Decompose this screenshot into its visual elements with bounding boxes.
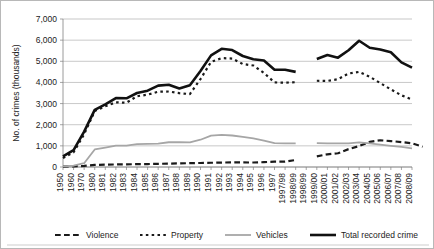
legend: ViolencePropertyVehiclesTotal recorded c… (7, 230, 429, 245)
x-tick-label: 1987 (161, 173, 171, 192)
x-tick-label: 1981 (97, 173, 107, 192)
x-tick-label: 1998/99 (298, 173, 308, 204)
x-tick-label: 1950 (55, 173, 65, 192)
x-tick-label: 1999/00 (309, 173, 319, 204)
x-tick-label: 1984 (129, 173, 139, 192)
series-line-segment (317, 72, 412, 100)
x-tick-label: 2006/07 (383, 173, 393, 204)
x-tick-label: 2008/09 (404, 173, 414, 204)
x-tick-label: 1970 (76, 173, 86, 192)
legend-label-property: Property (171, 230, 204, 240)
legend-label-vehicles: Vehicles (256, 230, 288, 240)
y-tick-label: 6,000 (36, 35, 58, 45)
xtick-label-layer: 1950196019701980198119821983198419851986… (55, 173, 414, 204)
x-tick-label: 1997 (267, 173, 277, 192)
x-tick-label: 1986 (150, 173, 160, 192)
legend-label-total-recorded-crime: Total recorded crime (341, 230, 418, 240)
series-total-recorded-crime (63, 41, 412, 157)
x-tick-label: 1980 (87, 173, 97, 192)
series-line-segment (317, 142, 412, 148)
chart-figure: 01,0002,0003,0004,0005,0006,0007,000 195… (0, 0, 434, 249)
x-tick-label: 2007/08 (393, 173, 403, 204)
legend-label-violence: Violence (86, 230, 119, 240)
x-tick-label: 1960 (66, 173, 76, 192)
x-tick-label: 2004/05 (362, 173, 372, 204)
x-tick-label: 1998/99 (288, 173, 298, 204)
x-tick-label: 1982 (108, 173, 118, 192)
x-tick-label: 1994 (235, 173, 245, 192)
x-tick-label: 1989 (182, 173, 192, 192)
x-tick-label: 1995 (245, 173, 255, 192)
series-line-segment (317, 41, 412, 68)
y-tick-label: 2,000 (36, 120, 58, 130)
x-tick-label: 1991 (203, 173, 213, 192)
y-tick-label: 4,000 (36, 77, 58, 87)
y-tick-label: 5,000 (36, 56, 58, 66)
x-tick-label: 1997/98 (277, 173, 287, 204)
x-tick-label: 1983 (118, 173, 128, 192)
x-tick-label: 1996 (256, 173, 266, 192)
y-tick-label: 7,000 (36, 14, 58, 24)
series-line-segment (63, 135, 296, 167)
x-tick-label: 1992 (214, 173, 224, 192)
x-tick-label: 1985 (140, 173, 150, 192)
x-tick-label: 2003/04 (351, 173, 361, 204)
y-axis-title: No. of crimes (thousands) (11, 44, 21, 141)
series-line-segment (63, 160, 296, 167)
y-tick-label: 3,000 (36, 99, 58, 109)
x-tick-label: 1988 (171, 173, 181, 192)
ytick-label-layer: 01,0002,0003,0004,0005,0006,0007,000 (36, 14, 58, 172)
x-tick-label: 2002/03 (341, 173, 351, 204)
x-tick-label: 1990 (192, 173, 202, 192)
x-tick-label: 2000/01 (319, 173, 329, 204)
y-axis-title-text: No. of crimes (thousands) (11, 44, 21, 141)
x-tick-label: 2005/06 (372, 173, 382, 204)
y-tick-label: 1,000 (36, 141, 58, 151)
crime-statistics-line-chart: 01,0002,0003,0004,0005,0006,0007,000 195… (1, 1, 434, 249)
series-violence (63, 140, 423, 166)
x-tick-label: 1993 (224, 173, 234, 192)
x-tick-label: 2001/02 (330, 173, 340, 204)
y-tick-label: 0 (52, 162, 57, 172)
